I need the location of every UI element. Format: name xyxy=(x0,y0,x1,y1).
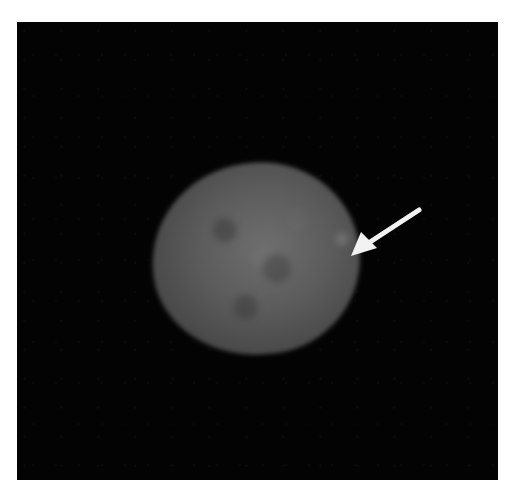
arrow-icon xyxy=(337,202,427,262)
arrow-shaft xyxy=(367,210,419,244)
chromatin-texture xyxy=(152,163,360,355)
arrow-head xyxy=(351,232,377,256)
micrograph-frame xyxy=(17,22,498,480)
